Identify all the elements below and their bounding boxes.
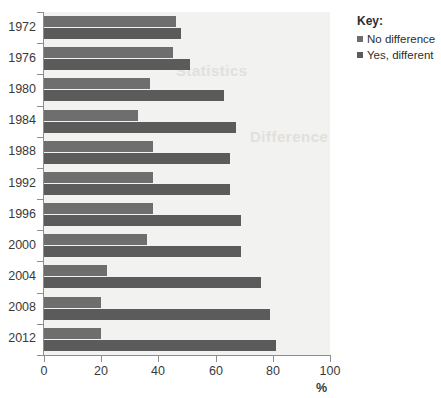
x-axis-tick-label: 80 [253, 364, 293, 378]
bar-group [0, 297, 441, 322]
bar-2008-series-1 [44, 309, 270, 320]
x-axis-line [43, 355, 331, 356]
legend: Key: No differenceYes, different [357, 14, 441, 65]
x-axis-tick [158, 356, 159, 362]
bar-group [0, 141, 441, 166]
x-axis-tick-label: 40 [138, 364, 178, 378]
bar-1988-series-1 [44, 153, 230, 164]
y-axis-tick [37, 12, 44, 13]
bar-1984-series-0 [44, 110, 138, 121]
x-axis-tick [273, 356, 274, 362]
bar-1980-series-1 [44, 90, 224, 101]
legend-label: Yes, different [367, 49, 434, 61]
bar-chart: StatisticsDifference 1972197619801984198… [0, 0, 441, 398]
bar-2004-series-0 [44, 265, 107, 276]
bar-group [0, 78, 441, 103]
x-axis-tick [216, 356, 217, 362]
y-axis-tick [37, 355, 44, 356]
legend-items: No differenceYes, different [357, 33, 441, 61]
y-axis-tick [37, 168, 44, 169]
bar-1972-series-0 [44, 16, 176, 27]
x-axis-tick [330, 356, 331, 362]
bar-group [0, 203, 441, 228]
y-axis-tick [37, 230, 44, 231]
bar-1972-series-1 [44, 28, 181, 39]
bar-group [0, 265, 441, 290]
y-axis-tick [37, 106, 44, 107]
legend-swatch-icon [357, 36, 363, 42]
legend-item-0: No difference [357, 33, 441, 45]
y-axis-tick [37, 43, 44, 44]
y-axis-tick [37, 137, 44, 138]
x-axis-tick [101, 356, 102, 362]
legend-swatch-icon [357, 52, 363, 58]
bar-1980-series-0 [44, 78, 150, 89]
bar-2012-series-1 [44, 340, 276, 351]
bar-1996-series-1 [44, 215, 241, 226]
x-axis-tick-label: 60 [196, 364, 236, 378]
y-axis-tick [37, 293, 44, 294]
x-axis-tick-label: 20 [81, 364, 121, 378]
bar-1984-series-1 [44, 122, 236, 133]
bar-1976-series-0 [44, 47, 173, 58]
bar-2000-series-0 [44, 234, 147, 245]
y-axis-tick [37, 324, 44, 325]
bar-group [0, 234, 441, 259]
legend-label: No difference [367, 33, 435, 45]
bar-1992-series-1 [44, 184, 230, 195]
bar-1988-series-0 [44, 141, 153, 152]
bar-2012-series-0 [44, 328, 101, 339]
bar-group [0, 328, 441, 353]
bar-group [0, 110, 441, 135]
legend-title: Key: [357, 14, 441, 28]
bar-1996-series-0 [44, 203, 153, 214]
bar-group [0, 172, 441, 197]
legend-item-1: Yes, different [357, 49, 441, 61]
x-axis-tick-label: 100 [310, 364, 350, 378]
bar-2008-series-0 [44, 297, 101, 308]
bar-1992-series-0 [44, 172, 153, 183]
bar-1976-series-1 [44, 59, 190, 70]
bar-2004-series-1 [44, 277, 261, 288]
y-axis-tick [37, 199, 44, 200]
y-axis-tick [37, 74, 44, 75]
y-axis-tick [37, 261, 44, 262]
bar-2000-series-1 [44, 246, 241, 257]
x-axis-title: % [316, 381, 327, 395]
x-axis-tick-label: 0 [24, 364, 64, 378]
x-axis-tick [44, 356, 45, 362]
